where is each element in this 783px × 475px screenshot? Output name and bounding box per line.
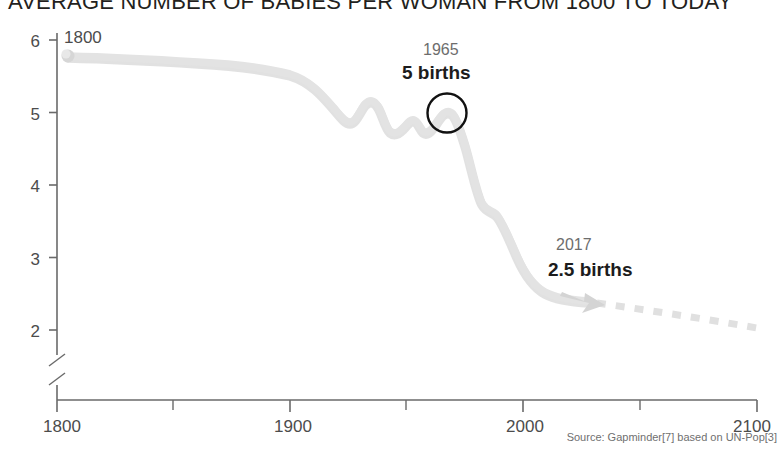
axis-break-icon bbox=[49, 354, 65, 385]
y-axis-tick-labels: 6 5 4 3 2 bbox=[31, 32, 40, 341]
y-tick-label-5: 5 bbox=[31, 105, 40, 124]
annotation-2017-year: 2017 bbox=[556, 236, 592, 253]
y-tick-label-4: 4 bbox=[31, 177, 40, 196]
y-axis bbox=[49, 33, 65, 400]
x-tick-label-1800: 1800 bbox=[43, 417, 81, 436]
y-tick-label-2: 2 bbox=[31, 322, 40, 341]
data-series-projection bbox=[597, 303, 757, 328]
historical-line-shadow bbox=[68, 58, 589, 303]
y-axis-ticks bbox=[49, 40, 57, 330]
x-tick-label-2000: 2000 bbox=[506, 417, 544, 436]
source-note: Source: Gapminder[7] based on UN-Pop[3] bbox=[567, 431, 777, 443]
start-point-marker-highlight bbox=[62, 50, 71, 59]
projection-line bbox=[597, 303, 757, 328]
annotation-2017-value: 2.5 births bbox=[548, 259, 632, 280]
annotation-1965-year: 1965 bbox=[423, 41, 459, 58]
x-axis-ticks bbox=[57, 400, 757, 412]
historical-line bbox=[68, 56, 589, 301]
chart-container: AVERAGE NUMBER OF BABIES PER WOMAN FROM … bbox=[0, 0, 783, 475]
y-tick-label-3: 3 bbox=[31, 250, 40, 269]
annotation-1965-value: 5 births bbox=[402, 62, 471, 83]
x-tick-label-1900: 1900 bbox=[274, 417, 312, 436]
data-series-historical bbox=[62, 50, 590, 304]
start-point-label: 1800 bbox=[64, 28, 102, 47]
y-tick-label-6: 6 bbox=[31, 32, 40, 51]
chart-plot-area: 6 5 4 3 2 1800 1900 2000 2100 bbox=[0, 0, 783, 475]
